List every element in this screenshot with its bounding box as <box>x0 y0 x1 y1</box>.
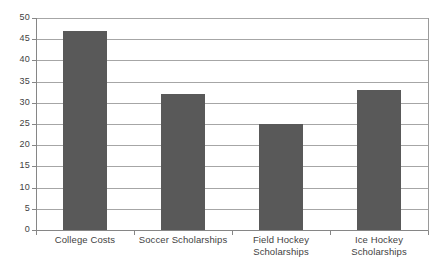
bar <box>259 124 303 230</box>
bar <box>161 94 205 230</box>
bar <box>63 31 107 230</box>
x-axis-category-label: College Costs <box>36 234 134 268</box>
category-label-line: Soccer Scholarships <box>135 234 231 246</box>
y-axis-tick-label: 5 <box>4 204 30 213</box>
y-axis-tick-label: 25 <box>4 119 30 128</box>
category-label-line: College Costs <box>37 234 133 246</box>
x-axis-tick-mark <box>428 231 429 235</box>
y-axis-tick-label: 15 <box>4 161 30 170</box>
y-axis-tick-label: 45 <box>4 34 30 43</box>
bars-layer <box>36 18 428 230</box>
category-label-line: Scholarships <box>233 246 329 258</box>
x-axis-category-label: Soccer Scholarships <box>134 234 232 268</box>
y-axis-tick-label: 30 <box>4 98 30 107</box>
y-axis-tick-label: 10 <box>4 183 30 192</box>
category-label-line: Ice Hockey Scholarships <box>331 234 427 258</box>
bar-chart: 05101520253035404550 College CostsSoccer… <box>0 0 441 268</box>
y-axis-tick-label: 20 <box>4 140 30 149</box>
y-axis-tick-label: 50 <box>4 13 30 22</box>
y-axis-tick-label: 35 <box>4 77 30 86</box>
x-axis-category-label: Ice Hockey Scholarships <box>330 234 428 268</box>
plot-right-border <box>428 18 429 231</box>
y-axis-tick-label: 40 <box>4 55 30 64</box>
category-label-line: Field Hockey <box>233 234 329 246</box>
x-axis-category-label: Field HockeyScholarships <box>232 234 330 268</box>
y-axis-tick-label: 0 <box>4 225 30 234</box>
x-axis-category-labels: College CostsSoccer ScholarshipsField Ho… <box>36 234 428 268</box>
bar <box>357 90 401 230</box>
